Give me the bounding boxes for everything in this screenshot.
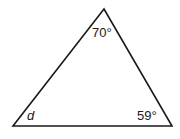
bottom-right-angle-label: 59° <box>137 108 157 123</box>
bottom-left-angle-label: d <box>27 108 35 123</box>
triangle-diagram: 70° d 59° <box>0 0 180 139</box>
apex-angle-label: 70° <box>92 25 112 40</box>
